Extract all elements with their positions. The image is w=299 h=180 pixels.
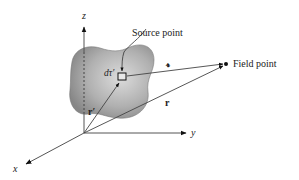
- separation-vector-label: 𝓻: [165, 59, 171, 69]
- field-position-label: r: [165, 97, 170, 108]
- source-position-label: r′: [88, 106, 95, 117]
- charge-distribution-blob: [70, 45, 154, 118]
- field-point-dot: [224, 62, 228, 66]
- x-axis-label: x: [12, 163, 18, 174]
- z-axis-label: z: [81, 10, 86, 21]
- volume-element-label: dτ′: [104, 68, 115, 78]
- volume-element-box: [118, 73, 126, 80]
- field-point-label: Field point: [233, 58, 277, 69]
- x-axis: [26, 133, 84, 164]
- source-field-diagram: z y x Source point Field point dτ′ 𝓻 r′ …: [0, 0, 299, 180]
- source-point-label: Source point: [132, 27, 183, 38]
- y-axis-label: y: [190, 127, 196, 138]
